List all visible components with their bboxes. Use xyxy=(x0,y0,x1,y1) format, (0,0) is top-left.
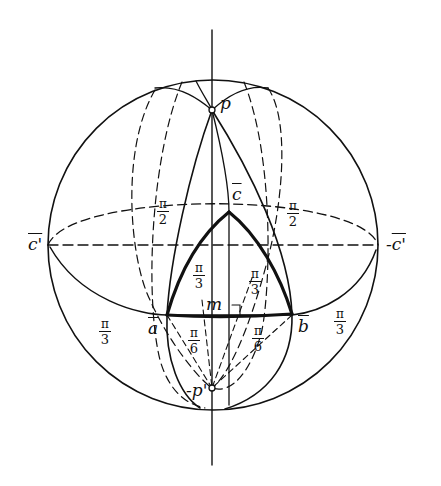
label-a: a xyxy=(148,320,158,337)
angle-right-upper: π 2 xyxy=(287,200,299,228)
angle-lower-left: π 6 xyxy=(188,327,200,355)
pole-negp-marker xyxy=(209,385,215,391)
label-m: m xyxy=(206,296,222,313)
angle-inner-right: π 3 xyxy=(249,268,261,296)
meridian-front-left xyxy=(196,81,212,110)
great-circle-back-left xyxy=(132,90,212,388)
arc-cb xyxy=(229,212,292,314)
angle-outer-left: π 3 xyxy=(99,318,111,346)
top-arc-left xyxy=(155,88,212,110)
right-angle-marker xyxy=(232,305,240,315)
label-c-prime-right-value: c' xyxy=(392,234,406,254)
meridian-pb xyxy=(212,110,292,409)
label-c: c xyxy=(232,186,242,203)
label-c-prime-left: c' xyxy=(28,236,42,253)
sphere-diagram xyxy=(0,0,441,486)
pole-p-marker xyxy=(209,107,215,113)
label-neg-p: -p' xyxy=(186,382,207,399)
equator-back xyxy=(48,204,378,245)
label-p: p xyxy=(220,95,231,112)
angle-outer-right: π 3 xyxy=(334,308,346,336)
label-c-prime-right: -c' xyxy=(386,236,406,253)
angle-inner-left: π 3 xyxy=(193,262,205,290)
angle-left-upper: π 2 xyxy=(157,198,169,226)
meridian-pc xyxy=(212,110,229,405)
great-circle-back-right xyxy=(212,88,282,388)
label-b: b xyxy=(298,318,309,335)
angle-lower-right: π 6 xyxy=(252,325,264,353)
